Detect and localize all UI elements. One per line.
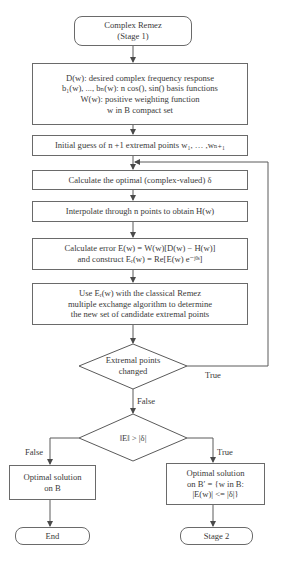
start-line-1: Complex Remez bbox=[104, 20, 162, 31]
interpolate-box: Interpolate through n points to obtain H… bbox=[32, 201, 248, 222]
edge-label-changed-false: False bbox=[137, 396, 155, 406]
remez-exchange-box: Use Eᵣ(w) with the classical Remez multi… bbox=[32, 283, 248, 325]
optimal-bprime-line-3: |E(w)| <= |δ|} bbox=[192, 489, 238, 500]
remez-line-3: the new set of candidate extremal points bbox=[71, 309, 209, 320]
remez-line-2: multiple exchange algorithm to determine bbox=[68, 299, 212, 310]
optimal-b-line-2: on B bbox=[44, 483, 60, 494]
calc-error-line-1: Calculate error E(w) = W(w)[D(w) − H(w)] bbox=[65, 243, 216, 254]
definitions-box: D(w): desired complex frequency response… bbox=[32, 63, 248, 125]
calc-error-box: Calculate error E(w) = W(w)[D(w) − H(w)]… bbox=[32, 238, 248, 270]
optimal-solution-bprime-box: Optimal solution on B′ = {w in B: |E(w)|… bbox=[166, 463, 265, 505]
optimal-bprime-line-1: Optimal solution bbox=[186, 468, 244, 479]
edge-label-norm-true: True bbox=[217, 447, 233, 457]
arrow-norm-false bbox=[50, 438, 79, 464]
interpolate-text: Interpolate through n points to obtain H… bbox=[66, 206, 214, 217]
end-terminal: End bbox=[15, 527, 90, 545]
decision-norm-text: ‖E‖ > |δ| bbox=[83, 433, 183, 444]
calc-delta-text: Calculate the optimal (complex-valued) δ bbox=[69, 175, 212, 186]
definitions-line-1: D(w): desired complex frequency response bbox=[66, 73, 214, 84]
decision-changed-line-2: changed bbox=[83, 366, 183, 377]
decision-changed-line-1: Extremal points bbox=[83, 355, 183, 366]
decision-changed-text: Extremal points changed bbox=[83, 355, 183, 376]
optimal-b-line-1: Optimal solution bbox=[23, 472, 81, 483]
definitions-line-2: b₁(w), ..., bₙ(w): n cos(), sin() basis … bbox=[62, 83, 218, 94]
initial-guess-box: Initial guess of n +1 extremal points w₁… bbox=[32, 135, 248, 156]
start-line-2: (Stage 1) bbox=[117, 31, 148, 42]
edge-label-norm-false: False bbox=[25, 447, 43, 457]
calc-error-line-2: and construct Eᵣ(w) = Re[E(w) e⁻ʲᶿˢ] bbox=[78, 254, 203, 265]
optimal-solution-b-box: Optimal solution on B bbox=[9, 465, 96, 500]
stage2-terminal: Stage 2 bbox=[180, 527, 253, 545]
optimal-bprime-line-2: on B′ = {w in B: bbox=[187, 479, 244, 490]
start-terminal: Complex Remez (Stage 1) bbox=[74, 16, 192, 46]
end-text: End bbox=[46, 531, 60, 542]
initial-guess-text: Initial guess of n +1 extremal points w₁… bbox=[55, 140, 225, 151]
stage2-text: Stage 2 bbox=[204, 531, 230, 542]
arrow-norm-true bbox=[187, 438, 213, 462]
remez-line-1: Use Eᵣ(w) with the classical Remez bbox=[79, 288, 201, 299]
decision-norm-line-1: ‖E‖ > |δ| bbox=[83, 433, 183, 444]
calc-delta-box: Calculate the optimal (complex-valued) δ bbox=[32, 170, 248, 190]
definitions-line-3: W(w): positive weighting function bbox=[80, 94, 199, 105]
edge-label-changed-true: True bbox=[205, 370, 221, 380]
definitions-line-4: w in B compact set bbox=[107, 105, 173, 116]
